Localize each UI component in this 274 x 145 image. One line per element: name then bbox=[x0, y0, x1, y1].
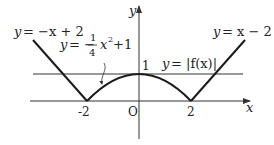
svg-text:= x − 2: = x − 2 bbox=[222, 24, 272, 39]
label-right-line: y = x − 2 bbox=[212, 24, 272, 39]
svg-text:4: 4 bbox=[89, 47, 95, 58]
svg-text:x: x bbox=[100, 37, 108, 52]
y-axis-label: y bbox=[128, 3, 137, 18]
svg-text:y: y bbox=[13, 24, 22, 39]
y-tick-1: 1 bbox=[142, 59, 150, 73]
svg-text:y: y bbox=[161, 56, 170, 71]
svg-text:+1: +1 bbox=[113, 37, 132, 52]
svg-text:= |f(x)|: = |f(x)| bbox=[171, 56, 217, 71]
svg-text:y: y bbox=[59, 37, 68, 52]
x-tick-minus-2: -2 bbox=[78, 105, 90, 119]
x-axis-label: x bbox=[246, 100, 254, 115]
label-abs-f: y = |f(x)| bbox=[161, 56, 217, 71]
x-tick-2: 2 bbox=[187, 105, 195, 119]
svg-text:y: y bbox=[212, 24, 221, 39]
svg-text:1: 1 bbox=[90, 32, 96, 43]
function-graph: x y O -2 2 1 y = −x + 2 y = x − 2 y = − … bbox=[0, 0, 274, 145]
origin-label: O bbox=[128, 105, 138, 119]
